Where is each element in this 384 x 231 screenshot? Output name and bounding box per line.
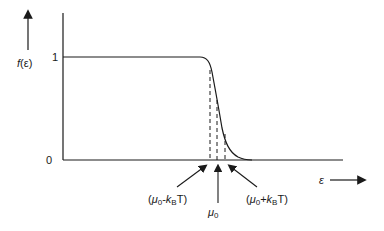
y-axis-label: f(ε) [17,57,32,69]
arrow-right [231,167,257,187]
y-tick-0: 0 [46,154,52,166]
y-tick-1: 1 [52,51,58,63]
fermi-dirac-diagram: f(ε) 1 0 (μ0-kBT) μ0 (μ0+kBT) ε [0,0,384,231]
distribution-curve [63,57,252,160]
label-mu-plus-kt: (μ0+kBT) [246,193,288,207]
arrow-left [177,167,204,187]
label-mu: μ0 [207,206,219,220]
label-mu-minus-kt: (μ0-kBT) [148,193,187,207]
x-axis-label: ε [319,174,324,186]
